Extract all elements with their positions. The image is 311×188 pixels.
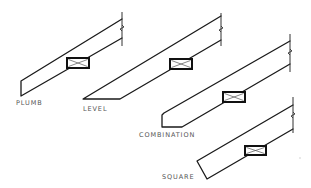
label-combination: COMBINATION [139, 132, 195, 139]
wall-plate-icon [67, 58, 89, 68]
wall-plate-icon [170, 59, 192, 69]
rafter-combination [162, 34, 292, 127]
rafter-level-outline [83, 16, 221, 99]
rafter-level [83, 13, 223, 99]
label-level: LEVEL [83, 106, 107, 113]
rafter-cuts-diagram: PLUMB LEVEL COMBINATION SQUARE [0, 0, 311, 188]
label-plumb: PLUMB [16, 100, 43, 107]
wall-plate-icon [245, 146, 266, 155]
speck [299, 157, 301, 159]
rafter-square-outline [197, 105, 293, 179]
wall-plate-icon [223, 92, 245, 102]
rafter-combination-outline [162, 41, 290, 127]
label-square: SQUARE [162, 174, 194, 181]
